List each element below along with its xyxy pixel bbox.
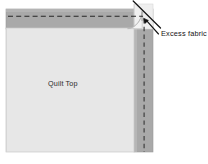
quilt-top-label: Quilt Top — [48, 80, 78, 87]
right-binding-strip-shading — [134, 29, 137, 152]
top-binding-strip-highlight — [6, 9, 142, 12]
cropped-caption-strip — [0, 159, 208, 164]
quilt-top-panel — [6, 28, 134, 152]
excess-fabric-label: Excess fabric — [161, 30, 207, 37]
quilt-corner-diagram: Quilt Top Excess fabric — [0, 0, 208, 164]
diagram-canvas — [0, 0, 208, 164]
